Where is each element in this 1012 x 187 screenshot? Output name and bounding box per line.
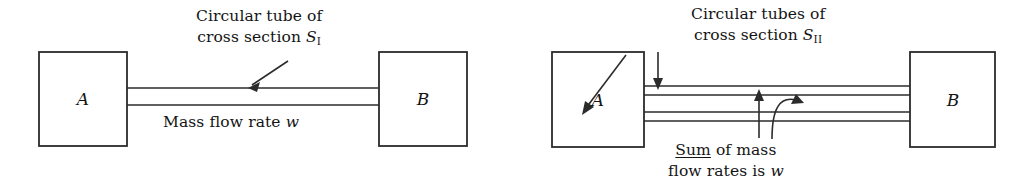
caption-tube-1-line2: cross section SI (196, 27, 322, 49)
caption-sum-2-line1: Sum of mass (668, 140, 784, 161)
caption-tubes-2-line1: Circular tubes of (691, 4, 825, 25)
caption-sum-2-line1-rest: of mass (711, 141, 777, 159)
cross-section-subscript-2: II (814, 33, 823, 45)
sum-flow-pointer-arrow (754, 89, 764, 138)
panel-case-1: A B Circular tube of cross section SI Ma… (0, 0, 506, 187)
figure-root: A B Circular tube of cross section SI Ma… (0, 0, 1012, 187)
caption-tubes-2-line2-prefix: cross section (694, 26, 803, 44)
vessel-b-label: B (417, 89, 430, 109)
caption-sum-2-line2-prefix: flow rates is (668, 162, 770, 180)
vessel-a-label: A (77, 89, 89, 109)
caption-mass-flow-rate-1: Mass flow rate w (163, 112, 299, 133)
cross-section-symbol-2: S (803, 26, 814, 44)
sum-flow-curved-arrow (772, 94, 804, 139)
upper-tube-pointer-arrow (653, 52, 663, 90)
sum-emphasis-word: Sum (675, 141, 711, 159)
caption-sum-of-mass-flow-rates: Sum of mass flow rates is w (668, 140, 784, 182)
caption-circular-tubes-2: Circular tubes of cross section SII (691, 4, 825, 47)
caption-circular-tube-1: Circular tube of cross section SI (196, 6, 322, 49)
panel-case-2: A B Circular tubes of cross section SII … (506, 0, 1012, 187)
caption-flow-1-text: Mass flow rate (163, 113, 286, 131)
caption-sum-2-line2: flow rates is w (668, 161, 784, 182)
vessel-b-label: B (947, 90, 960, 110)
cross-section-symbol-1: S (306, 28, 317, 46)
caption-tubes-2-line2: cross section SII (691, 25, 825, 47)
vessel-a-label: A (592, 90, 604, 110)
cross-section-subscript-1: I (317, 35, 321, 47)
mass-flow-symbol-2: w (770, 162, 783, 180)
mass-flow-symbol-1: w (286, 113, 299, 131)
caption-tube-1-line2-prefix: cross section (197, 28, 306, 46)
caption-tube-1-line1: Circular tube of (196, 6, 322, 27)
